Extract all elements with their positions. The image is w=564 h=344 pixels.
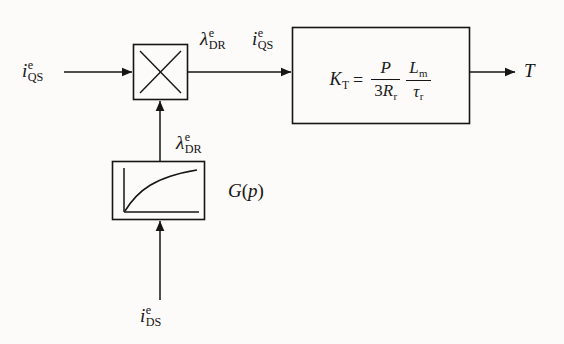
signal-label-input-ids: ieDS xyxy=(140,305,161,329)
diagram-vector-layer xyxy=(0,0,564,344)
equation-equals-sign: = xyxy=(353,70,363,91)
signal-label-mid-lambda-dr: λeDR xyxy=(200,28,226,52)
torque-constant-equation: KT = P 3Rr Lm τr xyxy=(299,57,464,103)
signal-label-input-iqs: ieQS xyxy=(22,60,43,84)
fraction-two-denominator: τr xyxy=(406,80,430,102)
magnetizing-curve-block-label: G(p) xyxy=(228,181,264,200)
signal-label-feedback-lambda-dr: λeDR xyxy=(176,132,202,156)
equation-fraction-one: P 3Rr xyxy=(371,58,400,101)
fraction-two-numerator: Lm xyxy=(406,58,430,79)
equation-fraction-two: Lm τr xyxy=(406,58,430,102)
signal-label-mid-iqs: ieQS xyxy=(252,28,273,52)
fraction-one-denominator: 3Rr xyxy=(371,79,400,101)
diagram-canvas: KT = P 3Rr Lm τr ieQS λeDR ieQS λeDR ieD… xyxy=(0,0,564,344)
fraction-one-numerator: P xyxy=(371,58,400,79)
multiplier-block xyxy=(134,45,188,100)
signal-label-output-torque: T xyxy=(524,61,535,80)
magnetizing-curve-block xyxy=(113,162,205,220)
equation-lhs: KT xyxy=(329,69,349,91)
